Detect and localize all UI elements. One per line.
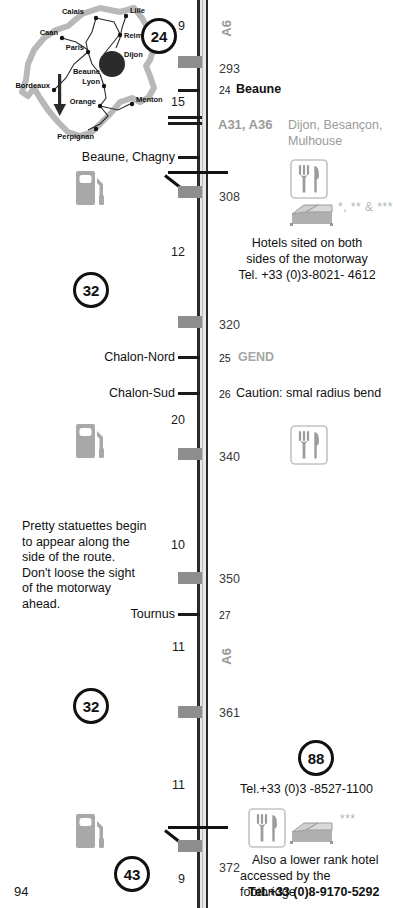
distance-marker: 9 <box>178 872 185 886</box>
caution-note: Caution: smal radius bend <box>236 386 381 400</box>
road-code-a6-top: A6 <box>219 20 234 37</box>
distance-marker: 11 <box>172 778 185 792</box>
service-crossbar-308 <box>168 171 228 174</box>
circle-marker-43[interactable]: 43 <box>114 856 150 892</box>
km-marker: 350 <box>219 572 240 586</box>
exit-number-27: 27 <box>219 609 231 621</box>
hotel-star-rating: *, ** & *** <box>338 200 393 214</box>
circle-marker-88[interactable]: 88 <box>298 740 334 776</box>
exit-number-26: 26 <box>219 388 231 400</box>
exit-name-beaune: Beaune <box>236 82 281 96</box>
km-marker: 340 <box>219 450 240 464</box>
road-code-a6-mid: A6 <box>219 648 234 665</box>
junction-destination-line1: Dijon, Besançon, <box>288 118 383 133</box>
service-crossbar-372 <box>168 826 228 829</box>
exit-number-25: 25 <box>219 352 231 364</box>
km-marker: 308 <box>219 190 240 204</box>
fuel-pump-icon <box>74 808 108 850</box>
map-city-dijon: Dijon <box>124 50 143 59</box>
junction-destination-line2: Mulhouse <box>288 134 342 149</box>
map-city-perpignan: Perpignan <box>57 132 94 141</box>
statuettes-note: Pretty statuettes begin to appear along … <box>22 519 182 612</box>
map-city-lille: Lille <box>130 6 145 15</box>
map-city-paris: Paris <box>66 43 84 52</box>
service88-note-phone: Tel.+33 (0)8-9170-5292 <box>248 885 379 901</box>
page-number: 94 <box>14 884 28 899</box>
fork-knife-icon <box>290 425 328 465</box>
exit-stub-24 <box>178 89 200 92</box>
motorway-centre-line <box>202 0 203 908</box>
service88-phone: Tel.+33 (0)3 -8527-1100 <box>240 782 373 798</box>
map-city-caan: Caan <box>40 28 59 37</box>
exit-stub-25 <box>178 356 200 359</box>
map-city-bordeaux: Bordeaux <box>15 81 50 90</box>
service-block-293 <box>178 56 202 68</box>
junction-double-line-a31-a36 <box>168 116 202 125</box>
service-block-340 <box>178 448 202 460</box>
junction-codes-a31-a36: A31, A36 <box>218 117 272 132</box>
fork-knife-icon <box>248 808 286 848</box>
fork-knife-icon <box>290 159 328 199</box>
distance-marker: 20 <box>171 413 185 427</box>
exit-stub-beaune-chagny <box>178 156 200 159</box>
service88-note-line1: Also a lower rank hotel <box>252 853 378 869</box>
km-marker: 320 <box>219 318 240 332</box>
distance-marker: 12 <box>171 245 185 259</box>
map-city-orange: Orange <box>70 97 96 106</box>
map-city-calais: Calais <box>62 7 84 16</box>
exit-number-24: 24 <box>219 84 231 96</box>
hotel-note-line1: Hotels sited on both <box>228 236 386 252</box>
service-block-372 <box>178 840 202 852</box>
gendarmerie-badge: GEND <box>238 350 274 364</box>
fuel-pump-icon <box>74 418 108 460</box>
circle-marker-32-lower[interactable]: 32 <box>73 688 109 724</box>
service-block-361 <box>178 706 202 718</box>
distance-marker: 9 <box>178 19 185 33</box>
distance-marker: 15 <box>171 95 185 109</box>
exit-label-chalon-nord: Chalon-Nord <box>104 350 175 364</box>
france-inset-map: Calais Lille Caan Reims Paris Dijon Beau… <box>8 2 168 142</box>
bed-icon <box>288 200 334 226</box>
service-block-308 <box>178 186 202 198</box>
exit-stub-26 <box>178 392 200 395</box>
map-city-lyon: Lyon <box>82 77 100 86</box>
fuel-pump-icon <box>74 165 108 207</box>
bed-icon <box>288 818 334 844</box>
distance-marker: 11 <box>172 640 185 654</box>
circle-marker-32-upper[interactable]: 32 <box>73 272 109 308</box>
km-marker: 361 <box>219 706 240 720</box>
exit-label-beaune-chagny: Beaune, Chagny <box>82 150 175 164</box>
exit-label-chalon-sud: Chalon-Sud <box>109 386 175 400</box>
map-city-menton: Menton <box>136 95 163 104</box>
km-marker: 293 <box>219 62 240 76</box>
circle-marker-24[interactable]: 24 <box>141 18 177 54</box>
map-city-beaune: Beaune <box>73 67 100 76</box>
km-marker: 372 <box>219 861 240 875</box>
service88-star-rating: *** <box>340 812 356 826</box>
hotel-note-phone: Tel. +33 (0)3-8021- 4612 <box>228 268 386 284</box>
exit-stub-27 <box>178 613 200 616</box>
hotel-note-line2: sides of the motorway <box>228 252 386 268</box>
service-block-320 <box>178 316 202 328</box>
